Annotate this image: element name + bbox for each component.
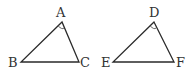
triangle-abc-shape	[21, 22, 79, 62]
vertex-label-f: F	[176, 55, 185, 70]
triangles-diagram: A B C D E F	[0, 0, 190, 78]
triangle-def-shape	[113, 22, 174, 62]
triangle-def: D E F	[101, 5, 185, 70]
vertex-label-d: D	[149, 5, 159, 20]
vertex-label-a: A	[55, 5, 66, 20]
angle-d-arc	[150, 26, 156, 29]
vertex-label-e: E	[101, 55, 111, 70]
vertex-label-b: B	[8, 55, 18, 70]
triangle-abc: A B C	[8, 5, 90, 70]
vertex-label-c: C	[80, 55, 90, 70]
